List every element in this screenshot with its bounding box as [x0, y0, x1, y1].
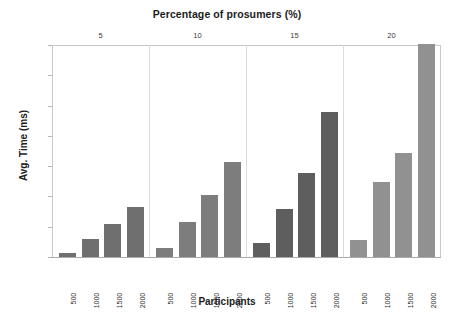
bar [179, 222, 196, 257]
group-separator [343, 45, 344, 257]
bar [224, 162, 241, 257]
bar [276, 209, 293, 257]
bar [321, 112, 338, 257]
bar [156, 248, 173, 257]
x-axis-title: Participants [0, 296, 454, 307]
bar [201, 195, 218, 257]
group-separator [149, 45, 150, 257]
bar [59, 253, 76, 257]
x-axis-tick-labels: 5001000150020005001000150020005001000150… [52, 259, 440, 297]
bar [82, 239, 99, 257]
plot-area [52, 45, 440, 257]
bar [253, 243, 270, 257]
group-separator [246, 45, 247, 257]
bar [350, 240, 367, 257]
bar [127, 207, 144, 257]
y-tick-mark [48, 257, 52, 258]
bar [298, 173, 315, 257]
bar-chart: Percentage of prosumers (%) 5101520 0100… [0, 0, 454, 323]
bar [418, 44, 435, 257]
bar [373, 182, 390, 257]
bar [395, 153, 412, 257]
bar [104, 224, 121, 257]
y-axis-title: Avg. Time (ms) [18, 76, 29, 216]
